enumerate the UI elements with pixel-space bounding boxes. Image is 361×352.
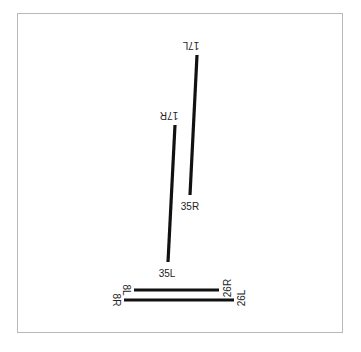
runway-end-label-35r: 35R [181,201,199,212]
runway-end-label-17r: 17R [160,110,178,121]
runway-end-label-26l: 26L [236,289,247,306]
runway-end-label-35l: 35L [159,268,176,279]
diagram-frame [18,14,343,333]
runway-end-label-17l: 17L [182,40,199,51]
runway-end-label-26r: 26R [222,279,233,297]
runway-end-label-8r: 8R [111,294,122,307]
runway-diagram: 17L 35R 17R 35L 8L 26R 8R 26L [0,0,361,352]
